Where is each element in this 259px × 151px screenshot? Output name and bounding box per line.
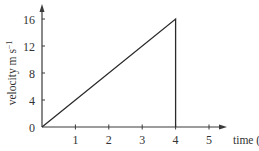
x-axis-label-text: time (s) xyxy=(233,134,259,147)
x-tick-label: 1 xyxy=(72,133,78,147)
x-axis-arrow-icon xyxy=(219,125,227,130)
y-tick-label: 16 xyxy=(23,13,35,27)
series-group xyxy=(42,19,176,127)
y-tick-label: 4 xyxy=(29,94,35,108)
velocity-time-chart: 481216 12345 0 time (s) velocity m s−1 xyxy=(0,0,259,151)
y-tick-label: 12 xyxy=(23,40,35,54)
origin-label: 0 xyxy=(29,121,35,135)
y-axis-label-superscript: −1 xyxy=(5,41,14,50)
series-line-velocity xyxy=(42,19,176,127)
y-tick-label: 8 xyxy=(29,67,35,81)
axes xyxy=(40,4,228,130)
x-axis-label: time (s) xyxy=(233,134,259,147)
x-tick-label: 5 xyxy=(206,133,212,147)
x-tick-label: 4 xyxy=(173,133,179,147)
x-tick-label: 3 xyxy=(139,133,145,147)
y-axis-arrow-icon xyxy=(40,4,45,12)
x-ticks: 12345 xyxy=(72,125,212,148)
y-axis-label: velocity m s−1 xyxy=(5,41,19,106)
y-axis-label-text: velocity m s xyxy=(6,49,19,106)
x-tick-label: 2 xyxy=(106,133,112,147)
